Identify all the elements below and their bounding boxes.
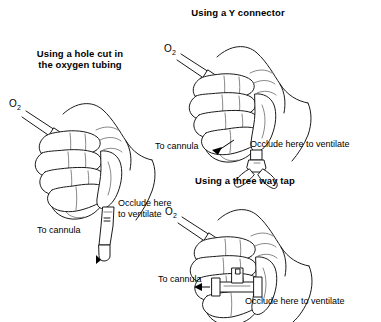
label-cannula-y: To cannula [155,141,199,152]
panel-y-connector: Using a Y connector O2 [150,0,381,165]
label-occlude-tap: Occlude here to ventilate [245,296,345,307]
oxygen-ventilation-figure: Using a hole cut in the oxygen tubing O2 [0,0,381,322]
panel-three-way-tap: Using a three way tap O2 [150,170,381,322]
label-cannula-hole: To cannula [37,225,81,236]
label-cannula-tap: To cannula [158,274,202,285]
label-occlude-y: Occlude here to ventilate [250,139,350,150]
